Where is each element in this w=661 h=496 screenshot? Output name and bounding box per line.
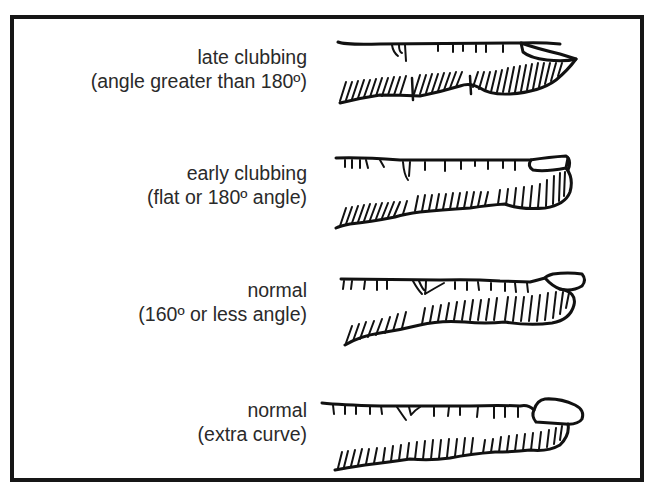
finger-late-clubbing-icon <box>338 42 576 103</box>
finger-normal-160-icon <box>341 273 585 345</box>
finger-normal-extra-curve-icon <box>322 399 583 470</box>
finger-early-clubbing-icon <box>336 156 571 228</box>
finger-drawings <box>0 0 661 496</box>
